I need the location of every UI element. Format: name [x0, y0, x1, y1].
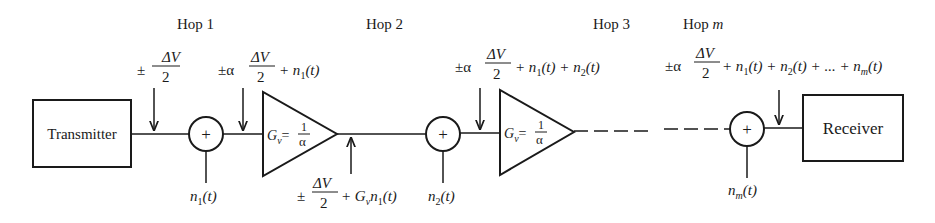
- svg-text:Gv=: Gv=: [504, 126, 527, 144]
- pre-amp1-signal-label: ±α ΔV 2 + n1(t): [218, 49, 320, 85]
- hop-3-label: Hop 3: [593, 16, 630, 32]
- hop-1-label: Hop 1: [177, 16, 214, 32]
- pre-amp2-signal-label: ±α ΔV 2 + n1(t) + n2(t): [455, 46, 600, 82]
- svg-text:+ n1(t) + n2(t): + n1(t) + n2(t): [515, 59, 600, 78]
- amplifier-2: Gv= 1 α: [500, 90, 574, 175]
- svg-text:ΔV: ΔV: [486, 46, 507, 62]
- transmit-signal-label: ± ΔV 2: [137, 49, 182, 85]
- receiver-label: Receiver: [823, 119, 884, 138]
- svg-text:α: α: [536, 132, 543, 147]
- summer-1: +: [189, 117, 223, 151]
- svg-text:+: +: [742, 120, 752, 139]
- svg-text:+ Gvn1(t): + Gvn1(t): [341, 188, 397, 207]
- hop-2-label: Hop 2: [366, 16, 403, 32]
- svg-text:±: ±: [137, 62, 145, 78]
- svg-text:1: 1: [301, 120, 307, 134]
- receiver-block: Receiver: [803, 95, 903, 161]
- svg-text:ΔV: ΔV: [695, 45, 716, 61]
- transmitter-label: Transmitter: [47, 126, 116, 142]
- post-amp1-signal-label: ± ΔV 2 + Gvn1(t): [297, 175, 397, 211]
- amplifier-1: Gv= 1 α: [263, 92, 337, 176]
- svg-text:+: +: [201, 125, 211, 144]
- noise-n2-label: n2(t): [428, 188, 455, 207]
- svg-text:Gv=: Gv=: [267, 128, 290, 146]
- hop-m-label: Hop m: [683, 16, 724, 32]
- svg-text:+ n1(t) + n2(t) + ... + nm(t): + n1(t) + n2(t) + ... + nm(t): [722, 58, 882, 77]
- svg-text:2: 2: [320, 195, 328, 211]
- receiver-input-signal-label: ±α ΔV 2 + n1(t) + n2(t) + ... + nm(t): [665, 45, 882, 81]
- svg-text:2: 2: [493, 66, 501, 82]
- svg-text:ΔV: ΔV: [250, 49, 271, 65]
- svg-text:±α: ±α: [218, 62, 234, 78]
- svg-text:1: 1: [538, 118, 544, 132]
- svg-text:2: 2: [162, 69, 170, 85]
- noise-nm-label: nm(t): [728, 182, 757, 201]
- svg-text:±α: ±α: [455, 59, 471, 75]
- svg-text:±α: ±α: [665, 58, 681, 74]
- svg-text:ΔV: ΔV: [312, 175, 333, 191]
- svg-text:2: 2: [257, 69, 265, 85]
- transmitter-block: Transmitter: [33, 100, 131, 167]
- svg-text:α: α: [299, 134, 306, 149]
- summer-m: +: [730, 112, 764, 146]
- svg-text:ΔV: ΔV: [161, 49, 182, 65]
- svg-text:±: ±: [297, 188, 305, 204]
- svg-text:+: +: [438, 125, 448, 144]
- summer-2: +: [426, 117, 460, 151]
- noise-n1-label: n1(t): [190, 188, 217, 207]
- svg-text:+ n1(t): + n1(t): [279, 62, 320, 81]
- svg-text:2: 2: [702, 65, 710, 81]
- multi-hop-repeater-diagram: Hop 1 Hop 2 Hop 3 Hop m Transmitter ± ΔV…: [0, 0, 935, 223]
